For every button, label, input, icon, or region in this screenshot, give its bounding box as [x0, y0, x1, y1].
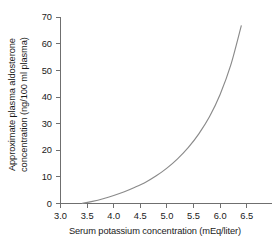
x-tick-label: 6.0: [214, 211, 227, 221]
x-tick-label: 3.5: [81, 211, 94, 221]
x-tick-label: 6.5: [240, 211, 253, 221]
x-tick-label: 4.0: [107, 211, 120, 221]
x-axis-title: Serum potassium concentration (mEq/liter…: [30, 226, 280, 236]
y-axis-tick-labels: 0 10 20 30 40 50 60 70: [42, 12, 52, 208]
chart-figure: Approximate plasma aldosterone concentra…: [0, 0, 280, 249]
y-tick-label: 60: [42, 39, 52, 49]
x-axis-tick-labels: 3.0 3.5 4.0 4.5 5.0 5.5 6.0 6.5: [54, 211, 253, 221]
y-tick-label: 10: [42, 172, 52, 182]
y-tick-label: 40: [42, 92, 52, 102]
y-tick-label: 0: [47, 199, 52, 209]
y-tick-label: 30: [42, 119, 52, 129]
plot-area: 0 10 20 30 40 50 60 70 3.0 3.5 4.0 4.5 5: [0, 0, 280, 249]
x-tick-label: 3.0: [54, 211, 67, 221]
y-tick-label: 50: [42, 66, 52, 76]
y-tick-label: 20: [42, 145, 52, 155]
x-tick-label: 4.5: [134, 211, 147, 221]
x-tick-label: 5.0: [160, 211, 173, 221]
aldosterone-curve: [82, 25, 242, 203]
x-axis-ticks: [61, 204, 247, 209]
y-tick-label: 70: [42, 12, 52, 22]
x-tick-label: 5.5: [187, 211, 200, 221]
y-axis-ticks: [56, 17, 61, 203]
